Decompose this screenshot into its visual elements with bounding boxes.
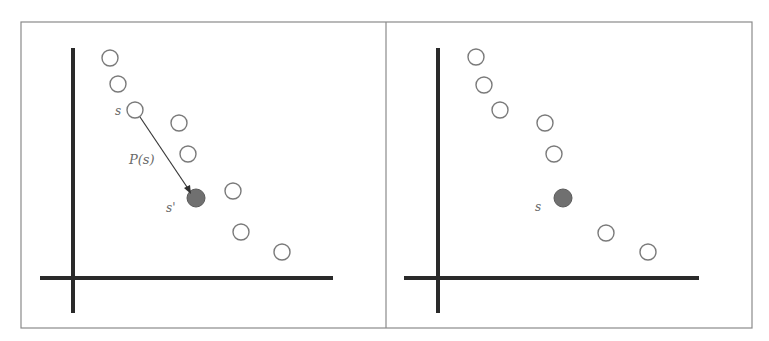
source-point-s xyxy=(127,102,143,118)
label-s: s xyxy=(115,104,121,118)
data-point xyxy=(468,49,484,65)
data-point xyxy=(102,50,118,66)
left-panel: s P(s) s' xyxy=(40,48,333,313)
data-point xyxy=(476,77,492,93)
data-point xyxy=(274,244,290,260)
label-s: s xyxy=(535,200,541,214)
arrow-head-icon xyxy=(184,185,191,194)
diagram: s P(s) s' s xyxy=(0,0,769,341)
data-point xyxy=(598,225,614,241)
label-s-prime: s' xyxy=(166,201,175,215)
data-point xyxy=(110,76,126,92)
data-point xyxy=(180,146,196,162)
data-point xyxy=(233,224,249,240)
label-projection: P(s) xyxy=(128,152,155,167)
data-point xyxy=(171,115,187,131)
data-point xyxy=(546,146,562,162)
data-point xyxy=(640,244,656,260)
data-point xyxy=(492,102,508,118)
data-point xyxy=(537,115,553,131)
point-s xyxy=(554,189,572,207)
right-panel: s xyxy=(404,48,699,313)
data-point xyxy=(225,183,241,199)
